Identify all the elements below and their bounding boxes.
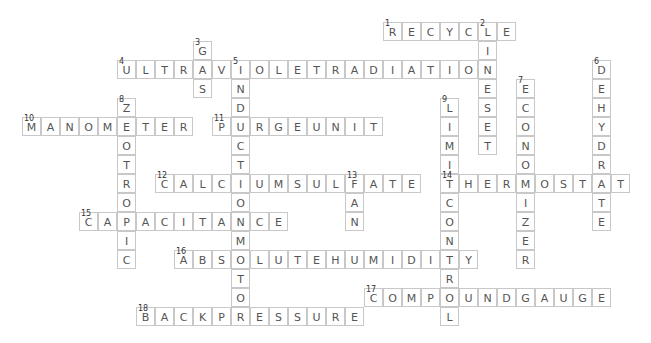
crossword-cell[interactable]: E bbox=[592, 288, 611, 307]
crossword-cell[interactable]: P bbox=[117, 212, 136, 231]
crossword-cell[interactable]: L bbox=[193, 174, 212, 193]
crossword-cell[interactable]: T bbox=[611, 174, 630, 193]
crossword-cell[interactable]: R bbox=[516, 250, 535, 269]
crossword-cell[interactable]: A bbox=[212, 212, 231, 231]
crossword-cell[interactable]: A bbox=[98, 212, 117, 231]
crossword-cell[interactable]: T bbox=[155, 60, 174, 79]
crossword-cell[interactable]: O bbox=[440, 288, 459, 307]
crossword-cell[interactable]: S bbox=[554, 174, 573, 193]
crossword-cell[interactable]: U bbox=[269, 250, 288, 269]
crossword-cell[interactable]: C bbox=[117, 250, 136, 269]
crossword-cell[interactable]: L bbox=[250, 250, 269, 269]
crossword-cell[interactable]: N bbox=[478, 288, 497, 307]
crossword-cell[interactable]: A bbox=[174, 174, 193, 193]
crossword-cell[interactable]: M bbox=[231, 231, 250, 250]
crossword-cell[interactable]: U bbox=[231, 117, 250, 136]
crossword-cell[interactable]: G bbox=[269, 117, 288, 136]
crossword-cell[interactable]: R1 bbox=[383, 22, 402, 41]
crossword-cell[interactable]: E bbox=[269, 212, 288, 231]
crossword-cell[interactable]: E bbox=[402, 22, 421, 41]
crossword-cell[interactable]: R bbox=[174, 60, 193, 79]
crossword-cell[interactable]: T bbox=[117, 155, 136, 174]
crossword-cell[interactable]: R bbox=[326, 307, 345, 326]
crossword-cell[interactable]: E bbox=[117, 117, 136, 136]
crossword-cell[interactable]: C bbox=[459, 22, 478, 41]
crossword-cell[interactable]: Y bbox=[592, 117, 611, 136]
crossword-cell[interactable]: T bbox=[573, 174, 592, 193]
crossword-cell[interactable]: E bbox=[478, 117, 497, 136]
crossword-cell[interactable]: N bbox=[478, 60, 497, 79]
crossword-cell[interactable]: N bbox=[516, 136, 535, 155]
crossword-cell[interactable]: T bbox=[231, 269, 250, 288]
crossword-cell[interactable]: A bbox=[402, 60, 421, 79]
crossword-cell[interactable]: A bbox=[345, 60, 364, 79]
crossword-cell[interactable]: H bbox=[592, 98, 611, 117]
crossword-cell[interactable]: I bbox=[383, 60, 402, 79]
crossword-cell[interactable]: I bbox=[478, 41, 497, 60]
crossword-cell[interactable]: Y bbox=[459, 250, 478, 269]
crossword-cell[interactable]: S bbox=[212, 250, 231, 269]
crossword-cell[interactable]: K bbox=[193, 307, 212, 326]
crossword-cell[interactable]: D bbox=[592, 136, 611, 155]
crossword-cell[interactable]: I bbox=[345, 117, 364, 136]
crossword-cell[interactable]: I bbox=[440, 117, 459, 136]
crossword-cell[interactable]: E7 bbox=[516, 79, 535, 98]
crossword-cell[interactable]: C bbox=[440, 193, 459, 212]
crossword-cell[interactable]: M bbox=[364, 250, 383, 269]
crossword-cell[interactable]: B18 bbox=[136, 307, 155, 326]
crossword-cell[interactable]: C15 bbox=[79, 212, 98, 231]
crossword-cell[interactable]: A bbox=[41, 117, 60, 136]
crossword-cell[interactable]: C17 bbox=[364, 288, 383, 307]
crossword-cell[interactable]: U bbox=[459, 288, 478, 307]
crossword-cell[interactable]: R bbox=[250, 117, 269, 136]
crossword-cell[interactable]: O bbox=[231, 193, 250, 212]
crossword-cell[interactable]: I bbox=[516, 193, 535, 212]
crossword-cell[interactable]: R bbox=[326, 60, 345, 79]
crossword-cell[interactable]: U bbox=[307, 174, 326, 193]
crossword-cell[interactable]: A bbox=[136, 212, 155, 231]
crossword-cell[interactable]: M bbox=[440, 136, 459, 155]
crossword-cell[interactable]: D bbox=[364, 60, 383, 79]
crossword-cell[interactable]: A bbox=[345, 193, 364, 212]
crossword-cell[interactable]: U bbox=[554, 288, 573, 307]
crossword-cell[interactable]: S bbox=[288, 307, 307, 326]
crossword-cell[interactable]: T bbox=[136, 117, 155, 136]
crossword-cell[interactable]: O bbox=[459, 60, 478, 79]
crossword-cell[interactable]: D6 bbox=[592, 60, 611, 79]
crossword-cell[interactable]: L bbox=[440, 307, 459, 326]
crossword-cell[interactable]: C bbox=[212, 174, 231, 193]
crossword-cell[interactable]: A bbox=[535, 288, 554, 307]
crossword-cell[interactable]: E bbox=[155, 117, 174, 136]
crossword-cell[interactable]: M bbox=[402, 288, 421, 307]
crossword-cell[interactable]: S bbox=[478, 98, 497, 117]
crossword-cell[interactable]: T bbox=[193, 212, 212, 231]
crossword-cell[interactable]: T bbox=[364, 117, 383, 136]
crossword-cell[interactable]: O bbox=[231, 288, 250, 307]
crossword-cell[interactable]: U bbox=[250, 174, 269, 193]
crossword-cell[interactable]: G3 bbox=[193, 41, 212, 60]
crossword-cell[interactable]: T bbox=[592, 193, 611, 212]
crossword-cell[interactable]: I bbox=[174, 212, 193, 231]
crossword-cell[interactable]: G bbox=[573, 288, 592, 307]
crossword-cell[interactable]: T14 bbox=[440, 174, 459, 193]
crossword-cell[interactable]: I bbox=[231, 174, 250, 193]
crossword-cell[interactable]: A bbox=[592, 174, 611, 193]
crossword-cell[interactable]: R bbox=[440, 269, 459, 288]
crossword-cell[interactable]: C bbox=[250, 212, 269, 231]
crossword-cell[interactable]: I5 bbox=[231, 60, 250, 79]
crossword-cell[interactable]: I bbox=[117, 231, 136, 250]
crossword-cell[interactable]: C bbox=[231, 136, 250, 155]
crossword-cell[interactable]: E bbox=[345, 307, 364, 326]
crossword-cell[interactable]: H bbox=[326, 250, 345, 269]
crossword-cell[interactable]: R bbox=[592, 155, 611, 174]
crossword-cell[interactable]: S bbox=[269, 307, 288, 326]
crossword-cell[interactable]: O bbox=[231, 250, 250, 269]
crossword-cell[interactable]: E bbox=[478, 79, 497, 98]
crossword-cell[interactable]: T bbox=[383, 174, 402, 193]
crossword-cell[interactable]: L bbox=[136, 60, 155, 79]
crossword-cell[interactable]: U bbox=[345, 250, 364, 269]
crossword-cell[interactable]: O bbox=[440, 212, 459, 231]
crossword-cell[interactable]: E bbox=[497, 22, 516, 41]
crossword-cell[interactable]: E bbox=[288, 117, 307, 136]
crossword-cell[interactable]: E bbox=[592, 212, 611, 231]
